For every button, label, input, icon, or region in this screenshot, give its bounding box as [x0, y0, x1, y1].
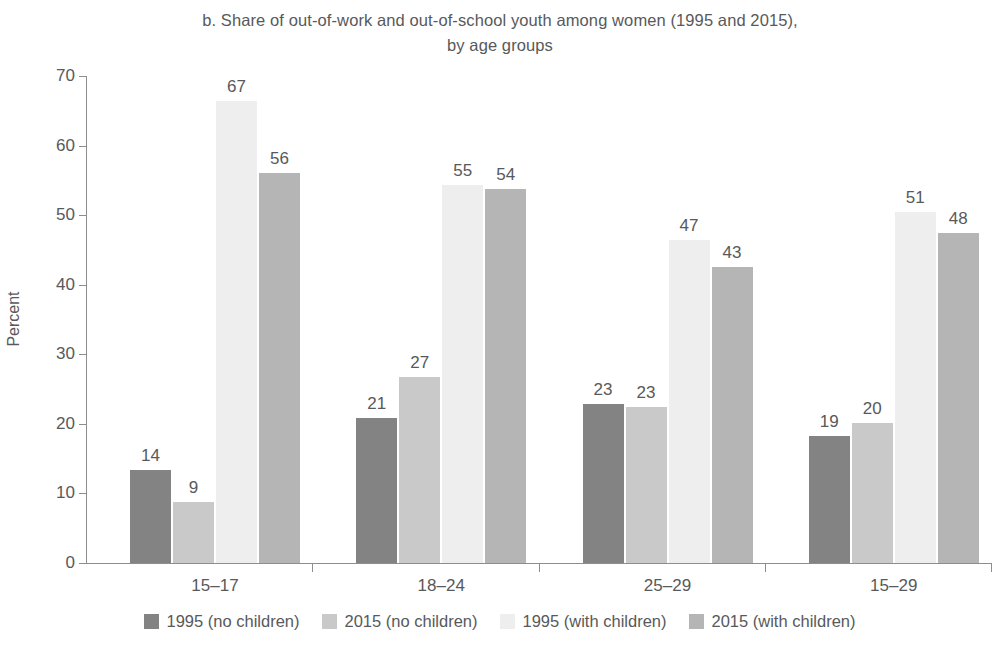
y-tick-label: 70	[56, 66, 75, 86]
x-axis-group-label: 15–17	[191, 576, 238, 596]
bar-value-label: 19	[820, 412, 839, 432]
bar-value-label: 51	[906, 188, 925, 208]
legend-swatch-icon	[322, 614, 337, 629]
x-axis-group-label: 18–24	[418, 576, 465, 596]
y-tick-label: 30	[56, 344, 75, 364]
chart-title-line-1: b. Share of out-of-work and out-of-schoo…	[120, 8, 880, 33]
bar-value-label: 27	[410, 353, 429, 373]
legend-item-2[interactable]: 2015 (no children)	[322, 612, 478, 631]
y-tick-mark	[79, 563, 86, 564]
y-tick-label: 0	[66, 553, 75, 573]
y-tick-label: 50	[56, 205, 75, 225]
bar[interactable]: 67	[216, 101, 257, 563]
x-tick-mark	[765, 563, 766, 572]
bar-value-label: 23	[637, 383, 656, 403]
bar[interactable]: 43	[712, 267, 753, 563]
bar-group: 149675615–17	[86, 76, 312, 563]
y-tick-mark	[79, 146, 86, 147]
chart-legend: 1995 (no children)2015 (no children)1995…	[0, 612, 999, 631]
legend-label: 2015 (with children)	[712, 612, 856, 631]
bar[interactable]: 21	[356, 418, 397, 563]
bar[interactable]: 48	[938, 233, 979, 563]
bar[interactable]: 19	[809, 436, 850, 563]
bar-group: 2323474325–29	[539, 76, 765, 563]
bar[interactable]: 20	[852, 423, 893, 563]
legend-label: 1995 (with children)	[523, 612, 667, 631]
bar-value-label: 9	[189, 478, 198, 498]
bar-value-label: 56	[270, 149, 289, 169]
y-tick-label: 10	[56, 483, 75, 503]
legend-swatch-icon	[144, 614, 159, 629]
plot-area: Percent 010203040506070 149675615–172127…	[86, 76, 991, 563]
legend-swatch-icon	[500, 614, 515, 629]
bar-value-label: 47	[680, 216, 699, 236]
chart-title-line-2: by age groups	[120, 33, 880, 58]
bar-value-label: 14	[141, 446, 160, 466]
bar-value-label: 54	[496, 165, 515, 185]
bar[interactable]: 23	[583, 404, 624, 563]
legend-item-3[interactable]: 1995 (with children)	[500, 612, 667, 631]
y-tick-label: 60	[56, 136, 75, 156]
bar-group: 1920514815–29	[765, 76, 991, 563]
x-tick-mark	[312, 563, 313, 572]
bar[interactable]: 55	[442, 185, 483, 563]
bar[interactable]: 14	[130, 470, 171, 563]
legend-swatch-icon	[689, 614, 704, 629]
bar-group: 2127555418–24	[312, 76, 538, 563]
y-tick-mark	[79, 76, 86, 77]
bar[interactable]: 23	[626, 407, 667, 563]
y-axis-title: Percent	[5, 291, 23, 346]
bar-value-label: 23	[594, 380, 613, 400]
x-tick-mark	[991, 563, 992, 572]
y-tick-mark	[79, 215, 86, 216]
bar[interactable]: 9	[173, 502, 214, 563]
x-axis-group-label: 25–29	[644, 576, 691, 596]
bar[interactable]: 51	[895, 212, 936, 563]
legend-label: 2015 (no children)	[345, 612, 478, 631]
bar-value-label: 67	[227, 77, 246, 97]
chart-figure: b. Share of out-of-work and out-of-schoo…	[0, 0, 999, 647]
legend-item-1[interactable]: 1995 (no children)	[144, 612, 300, 631]
x-axis-group-label: 15–29	[870, 576, 917, 596]
y-tick-mark	[79, 285, 86, 286]
bar[interactable]: 54	[485, 189, 526, 563]
y-tick-mark	[79, 354, 86, 355]
bar[interactable]: 47	[669, 240, 710, 563]
legend-label: 1995 (no children)	[167, 612, 300, 631]
legend-item-4[interactable]: 2015 (with children)	[689, 612, 856, 631]
bar-value-label: 48	[949, 209, 968, 229]
bar[interactable]: 27	[399, 377, 440, 563]
bar[interactable]: 56	[259, 173, 300, 563]
bar-value-label: 55	[453, 161, 472, 181]
y-tick-label: 40	[56, 275, 75, 295]
y-tick-mark	[79, 424, 86, 425]
chart-title: b. Share of out-of-work and out-of-schoo…	[120, 8, 880, 58]
y-tick-label: 20	[56, 414, 75, 434]
x-tick-mark	[539, 563, 540, 572]
bar-value-label: 21	[367, 394, 386, 414]
bar-value-label: 20	[863, 399, 882, 419]
bar-value-label: 43	[723, 243, 742, 263]
y-tick-mark	[79, 493, 86, 494]
